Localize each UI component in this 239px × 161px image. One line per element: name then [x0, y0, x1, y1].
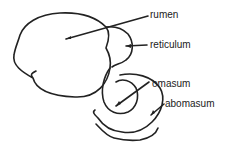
- reticulum-arrowhead: [126, 44, 131, 48]
- stomach-outline: [0, 0, 239, 161]
- rumen-leader: [66, 16, 148, 39]
- omasum-leader: [116, 82, 149, 106]
- label-rumen: rumen: [150, 10, 178, 20]
- stomach-diagram: rumen reticulum omasum abomasum: [0, 0, 239, 161]
- label-reticulum: reticulum: [150, 40, 191, 50]
- label-omasum: omasum: [152, 79, 190, 89]
- omasum-arrowhead: [116, 101, 121, 106]
- rumen-shape: [14, 13, 111, 97]
- label-abomasum: abomasum: [165, 99, 214, 109]
